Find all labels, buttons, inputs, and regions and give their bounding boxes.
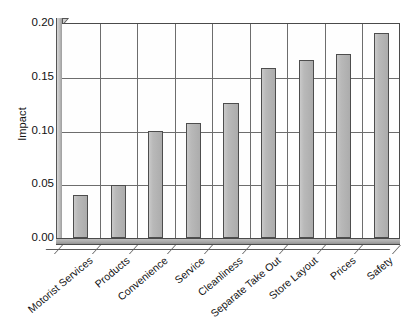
x-axis-category-labels: Motorist ServicesProductsConvenienceServ… xyxy=(0,0,410,328)
bar-chart-figure: Impact 0.000.050.100.150.20 Motorist Ser… xyxy=(0,0,410,328)
